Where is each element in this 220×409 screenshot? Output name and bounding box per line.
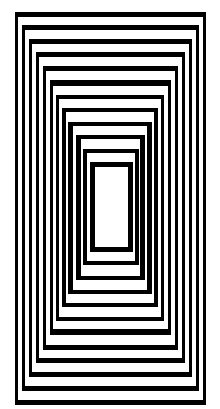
nested-rectangle: [90, 162, 133, 252]
op-art-canvas: [0, 0, 220, 409]
